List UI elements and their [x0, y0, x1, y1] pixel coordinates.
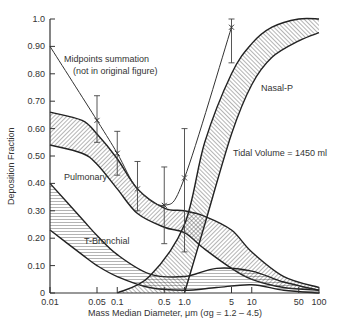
- y-tick-label: 0.80: [27, 69, 45, 79]
- x-tick-label: 0.05: [88, 297, 106, 307]
- y-tick-label: 0.30: [27, 206, 45, 216]
- annotation-midpoints: Midpoints summation: [64, 54, 149, 64]
- label-t-bronchial: T-Bronchial: [84, 236, 130, 246]
- y-axis-ticks: 00.100.200.300.400.500.600.700.800.901.0: [27, 14, 55, 298]
- x-tick-label: 0.01: [41, 297, 59, 307]
- x-tick-label: 0.5: [158, 297, 171, 307]
- y-tick-label: 0.90: [27, 41, 45, 51]
- x-tick-label: 100: [311, 297, 326, 307]
- x-tick-label: 1.0: [178, 297, 191, 307]
- y-tick-label: 0.60: [27, 124, 45, 134]
- deposition-chart: 00.100.200.300.400.500.600.700.800.901.0…: [0, 0, 340, 331]
- y-tick-label: 0.20: [27, 233, 45, 243]
- y-tick-label: 0.50: [27, 151, 45, 161]
- y-tick-label: 1.0: [32, 14, 45, 24]
- x-tick-label: 5: [229, 297, 234, 307]
- annotation-not-original: (not in original figure): [73, 66, 158, 76]
- x-tick-label: 0.1: [111, 297, 124, 307]
- x-tick-label: 50: [294, 297, 304, 307]
- y-tick-label: 0.70: [27, 96, 45, 106]
- annotation-tidal-volume: Tidal Volume = 1450 ml: [233, 148, 327, 158]
- label-pulmonary: Pulmonary: [64, 172, 108, 182]
- x-axis-label: Mass Median Diameter, μm (σg = 1.2 – 4.5…: [88, 308, 262, 318]
- x-tick-label: 10: [247, 297, 257, 307]
- y-tick-label: 0.10: [27, 261, 45, 271]
- y-tick-label: 0.40: [27, 178, 45, 188]
- y-axis-label: Deposition Fraction: [6, 127, 16, 205]
- label-nasal-p: Nasal-P: [261, 83, 293, 93]
